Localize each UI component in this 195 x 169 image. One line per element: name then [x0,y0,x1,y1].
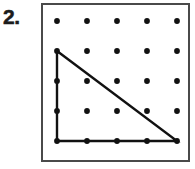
peg-r4-c4 [144,108,150,114]
peg-r3-c4 [144,78,150,84]
problem-number-label: 2. [3,4,37,30]
peg-r1-c2 [84,18,90,24]
peg-r1-c3 [114,18,120,24]
peg-r1-c1 [54,18,60,24]
peg-r4-c5 [174,108,180,114]
peg-r3-c3 [114,78,120,84]
right-triangle-shape [57,51,177,141]
worksheet-page: 2. [0,0,195,169]
peg-r1-c5 [174,18,180,24]
peg-r2-c4 [144,48,150,54]
peg-grid [54,18,180,144]
peg-r2-c3 [114,48,120,54]
peg-r2-c5 [174,48,180,54]
peg-r2-c2 [84,48,90,54]
geoboard-canvas [41,3,190,162]
peg-r4-c2 [84,108,90,114]
peg-r4-c3 [114,108,120,114]
peg-r3-c5 [174,78,180,84]
peg-r1-c4 [144,18,150,24]
peg-r3-c2 [84,78,90,84]
